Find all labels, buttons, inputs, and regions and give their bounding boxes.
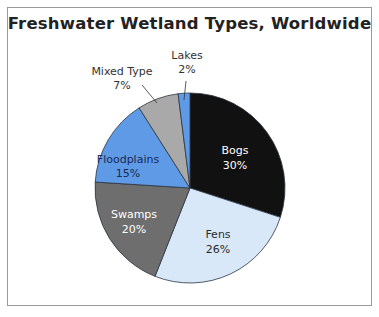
leader-line-mixed (142, 85, 157, 103)
label-fens-pct: 26% (206, 243, 230, 256)
label-floodplains-pct: 15% (116, 167, 140, 180)
label-swamps-pct: 20% (122, 223, 146, 236)
label-bogs-name: Bogs (222, 144, 249, 157)
label-swamps-name: Swamps (111, 208, 157, 221)
label-lakes-name: Lakes (171, 49, 203, 62)
label-bogs-pct: 30% (223, 159, 247, 172)
label-fens-name: Fens (205, 228, 230, 241)
label-mixed-name: Mixed Type (91, 65, 152, 78)
pie-chart: Bogs 30% Fens 26% Swamps 20% Floodplains… (0, 0, 379, 317)
label-mixed-pct: 7% (113, 79, 130, 92)
label-lakes-pct: 2% (178, 63, 195, 76)
label-floodplains-name: Floodplains (97, 153, 160, 166)
